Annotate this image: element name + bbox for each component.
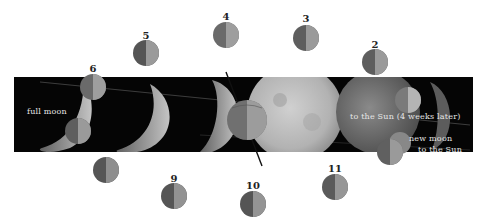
full-moon-label: full moon	[27, 108, 67, 116]
to-sun-label: to the Sun	[418, 146, 462, 154]
moon-label-9: 9	[171, 174, 178, 184]
moon-label-3: 3	[303, 14, 310, 24]
lunar-phase-diagram: 2 3 4 5 6 9 10 11 full moon to the Sun (…	[0, 0, 486, 224]
moon-label-2: 2	[372, 40, 379, 50]
moon-crater	[303, 113, 321, 131]
moon-crater	[273, 93, 287, 107]
moon-label-6: 6	[90, 64, 97, 74]
new-moon-label: new moon	[409, 135, 452, 143]
moon-label-5: 5	[143, 31, 150, 41]
moon-label-11: 11	[328, 164, 342, 174]
moon-label-4: 4	[223, 12, 230, 22]
to-sun-later-label: to the Sun (4 weeks later)	[350, 113, 461, 121]
crescent-moon	[117, 84, 170, 153]
moon-label-10: 10	[246, 181, 260, 191]
